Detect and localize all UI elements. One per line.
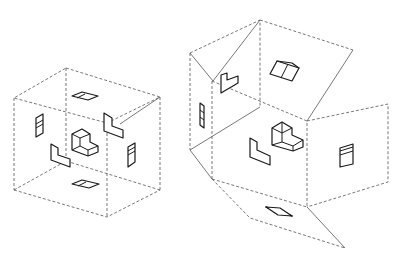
unfolded-glass-box [190,20,388,248]
top-view [72,92,98,100]
cube-bottom-front-edges [14,190,160,217]
net-fold-line-left [190,53,213,81]
right-side-view [128,143,135,167]
net-top-view [270,61,299,81]
diagram-canvas [0,0,402,262]
diagram-stage [0,0,402,262]
glass-box-cube [14,68,160,217]
net-left-view [200,103,204,128]
net-right-view [340,144,353,167]
projection-line [120,97,160,124]
front-view [51,144,70,167]
bottom-view [72,180,99,188]
net-left-lower-edge [190,150,212,179]
net-top-face-edge [260,20,353,50]
net-l-block-object [272,122,303,151]
net-bottom-face-fold [307,207,345,248]
left-side-view [36,114,43,137]
l-block-object [72,129,98,156]
net-bottom-view [266,207,292,216]
net-fold-line-diagonal [213,20,260,81]
net-back-view [221,73,238,93]
net-front-view [250,138,270,165]
net-top-face-fold [307,50,353,121]
